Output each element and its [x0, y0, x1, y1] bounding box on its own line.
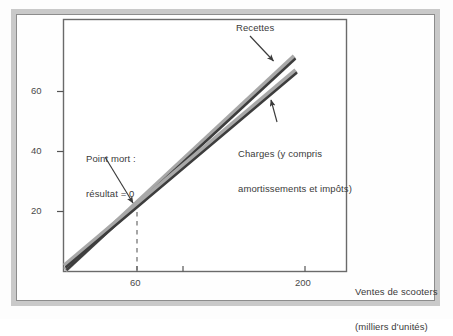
annotation-point-mort: Point mort : résultat = 0 — [86, 130, 136, 222]
y-axis-tick-label-20: 20 — [31, 206, 42, 216]
annotation-charges-line-2: amortissements et impôts) — [238, 183, 352, 195]
x-axis-title-line-2: (milliers d'unités) — [355, 321, 438, 333]
annotation-recettes: Recettes — [236, 22, 274, 34]
x-axis-title: Ventes de scooters (milliers d'unités) — [355, 263, 438, 336]
y-axis-tick-label-40: 40 — [31, 146, 42, 156]
annotation-point-mort-line-1: Point mort : — [86, 153, 136, 165]
figure-inner-rule — [16, 14, 435, 301]
figure-outer-frame — [11, 9, 440, 306]
annotation-point-mort-line-2: résultat = 0 — [86, 188, 136, 200]
annotation-charges: Charges (y compris amortissements et imp… — [238, 125, 352, 217]
y-axis-tick-label-60: 60 — [31, 86, 42, 96]
x-axis-title-line-1: Ventes de scooters — [355, 286, 438, 298]
x-axis-tick-label-60: 60 — [130, 278, 141, 288]
x-axis-tick-label-200: 200 — [295, 278, 311, 288]
annotation-charges-line-1: Charges (y compris — [238, 148, 352, 160]
